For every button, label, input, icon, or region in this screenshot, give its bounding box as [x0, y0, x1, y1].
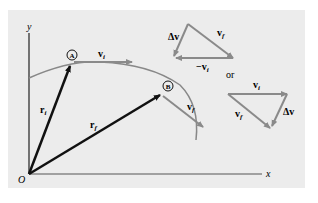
vi-label: vi	[98, 48, 105, 61]
t1-neg-vi-label: −vi	[196, 61, 209, 74]
motion-diagram: y x O ri rf A vi B vf Δv vf −vi or vi vf…	[0, 0, 318, 203]
y-axis-label: y	[26, 21, 32, 32]
ri-vector	[29, 66, 70, 174]
point-b-label: B	[166, 83, 171, 91]
rf-vector	[29, 95, 160, 174]
velocity-triangle-1: Δv vf −vi	[168, 24, 233, 74]
t1-vf-arrow	[188, 24, 233, 58]
vf-label: vf	[187, 101, 195, 114]
velocity-triangle-2: vi vf Δv	[228, 79, 294, 128]
trajectory-curve	[29, 62, 197, 140]
t1-vf-label: vf	[217, 27, 225, 40]
rf-label: rf	[90, 119, 97, 132]
or-label: or	[226, 69, 235, 80]
origin-label: O	[18, 174, 25, 185]
t1-dv-label: Δv	[168, 31, 179, 42]
ri-label: ri	[40, 104, 46, 117]
t2-vi-label: vi	[253, 79, 260, 92]
t2-vf-label: vf	[235, 108, 243, 121]
vf-vector	[163, 96, 203, 127]
x-axis-label: x	[265, 168, 271, 179]
t2-dv-label: Δv	[283, 106, 294, 117]
point-a-label: A	[69, 52, 74, 60]
